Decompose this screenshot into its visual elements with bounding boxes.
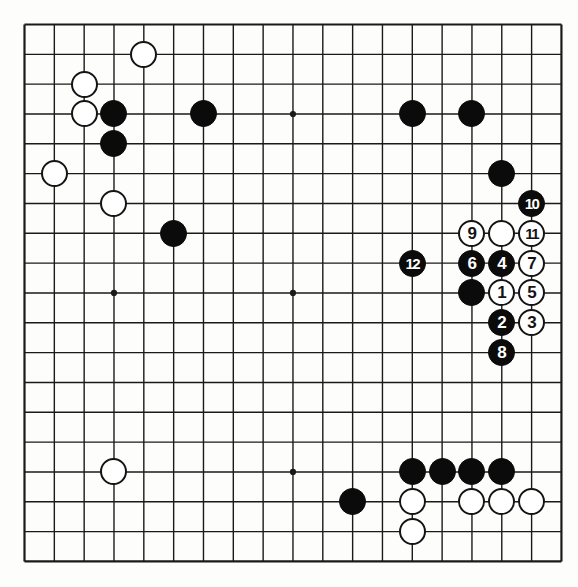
move-number-label: 8: [497, 344, 506, 361]
stone-black-move-10[interactable]: 10: [518, 190, 545, 217]
move-number-label: 1: [497, 284, 506, 301]
stone-white[interactable]: [399, 518, 426, 545]
move-number-label: 12: [405, 255, 419, 270]
go-diagram: 109111264715238: [0, 0, 578, 587]
stone-white[interactable]: [71, 100, 98, 127]
move-number-label: 9: [467, 224, 476, 241]
stone-black-move-4[interactable]: 4: [488, 250, 515, 277]
stone-white[interactable]: [130, 41, 157, 68]
star-point: [111, 290, 117, 296]
stone-black-move-6[interactable]: 6: [458, 250, 485, 277]
star-point: [290, 290, 296, 296]
move-number-label: 7: [527, 254, 536, 271]
stone-black[interactable]: [429, 458, 456, 485]
move-number-label: 2: [497, 314, 506, 331]
star-point: [290, 469, 296, 475]
stone-black-move-12[interactable]: 12: [399, 250, 426, 277]
stone-white[interactable]: [41, 160, 68, 187]
move-number-label: 5: [527, 284, 536, 301]
move-number-label: 4: [497, 254, 506, 271]
move-number-label: 10: [525, 195, 539, 210]
stone-black[interactable]: [160, 220, 187, 247]
stone-white[interactable]: [399, 488, 426, 515]
move-number-label: 6: [467, 254, 476, 271]
stone-white-move-7[interactable]: 7: [518, 250, 545, 277]
star-point: [290, 111, 296, 117]
stone-white-move-11[interactable]: 11: [518, 220, 545, 247]
move-number-label: 3: [527, 314, 536, 331]
stone-white[interactable]: [488, 220, 515, 247]
move-number-label: 11: [525, 225, 538, 240]
stone-white[interactable]: [71, 71, 98, 98]
